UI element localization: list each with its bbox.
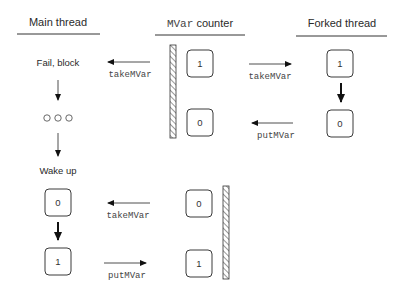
forked-thread-title: Forked thread xyxy=(308,17,376,29)
phase-2: Wake up 0 1 takeMVar putMVar 0 1 xyxy=(39,165,229,281)
mvar-title-rest: counter xyxy=(193,17,233,29)
mvar-lock-bar xyxy=(170,45,176,138)
column-header-mvar: MVar counter xyxy=(155,17,245,35)
main-takemvar-label: takeMVar xyxy=(106,211,149,221)
forked-value: 1 xyxy=(337,58,342,69)
mvar-lock-bar xyxy=(223,186,229,279)
main-value: 0 xyxy=(55,197,60,208)
main-takemvar-label: takeMVar xyxy=(108,70,151,80)
main-wake-up-label: Wake up xyxy=(39,165,76,176)
forked-takemvar-label: takeMVar xyxy=(248,72,291,82)
waiting-dots-icon xyxy=(44,115,72,121)
mvar-type-code: MVar xyxy=(167,18,193,30)
forked-value: 0 xyxy=(337,118,342,129)
forked-putmvar-label: putMVar xyxy=(257,131,295,141)
main-fail-block-label: Fail, block xyxy=(37,57,80,68)
column-header-forked: Forked thread xyxy=(296,17,387,36)
mvar-value: 0 xyxy=(196,198,201,209)
main-value: 1 xyxy=(55,256,60,267)
phase-1: Fail, block takeMVar 1 0 takeMVar putMVa… xyxy=(37,45,353,156)
column-header-main: Main thread xyxy=(17,16,100,34)
mvar-diagram: Main thread MVar counter Forked thread F… xyxy=(0,0,403,295)
main-thread-title: Main thread xyxy=(29,16,87,28)
mvar-counter-title: MVar counter xyxy=(167,17,233,30)
main-putmvar-label: putMVar xyxy=(108,271,146,281)
mvar-value: 1 xyxy=(197,58,202,69)
mvar-value: 1 xyxy=(196,258,201,269)
mvar-value: 0 xyxy=(197,117,202,128)
